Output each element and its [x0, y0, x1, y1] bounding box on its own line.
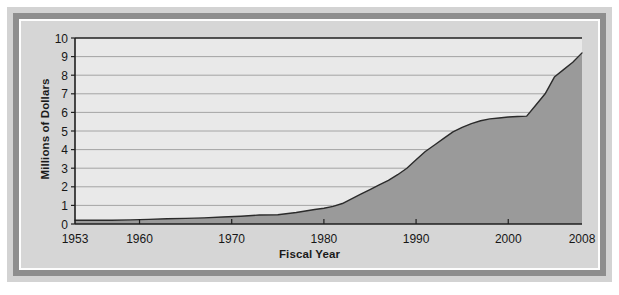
- y-tick-label: 6: [61, 106, 68, 120]
- y-tick-label: 0: [61, 218, 68, 232]
- x-tick-label: 1970: [218, 232, 245, 246]
- x-axis-title: Fiscal Year: [21, 248, 598, 260]
- x-tick-label: 2008: [569, 232, 596, 246]
- y-tick-label: 3: [61, 162, 68, 176]
- area-chart-plot: 012345678910 195319601970198019902000200…: [21, 21, 598, 268]
- y-tick-label: 4: [61, 143, 68, 157]
- y-axis-title: Millions of Dollars: [39, 59, 51, 199]
- y-tick-label: 9: [61, 50, 68, 64]
- y-tick-label: 1: [61, 199, 68, 213]
- chart-panel: 012345678910 195319601970198019902000200…: [21, 21, 598, 268]
- x-tick-label: 1960: [126, 232, 153, 246]
- y-tick-label: 2: [61, 180, 68, 194]
- x-tick-label: 1990: [403, 232, 430, 246]
- y-tick-label: 5: [61, 125, 68, 139]
- y-tick-label: 8: [61, 69, 68, 83]
- x-tick-label: 1980: [311, 232, 338, 246]
- y-tick-labels-group: 012345678910: [55, 32, 75, 232]
- figure-root: 012345678910 195319601970198019902000200…: [0, 0, 619, 295]
- x-tick-label: 1953: [62, 232, 89, 246]
- x-tick-label: 2000: [495, 232, 522, 246]
- y-tick-label: 10: [55, 32, 69, 46]
- y-tick-label: 7: [61, 87, 68, 101]
